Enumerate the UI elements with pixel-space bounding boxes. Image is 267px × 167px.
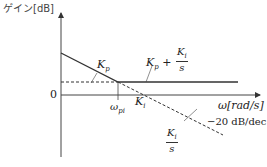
bode-plot: [0, 0, 267, 167]
y-axis-label: ゲイン[dB]: [3, 4, 54, 14]
zero-label: 0: [50, 89, 57, 100]
int-fraction: Ki s: [166, 128, 178, 154]
ki-label: Ki: [135, 96, 145, 110]
int-leader: [184, 109, 197, 121]
break-freq-label: ωpi: [110, 102, 125, 115]
kp-label: Kp: [97, 59, 110, 73]
slope-label: −20 dB/dec: [207, 117, 266, 127]
sum-fraction: Ki s: [176, 47, 188, 73]
x-axis-label: ω[rad/s]: [218, 100, 264, 111]
sum-label: Kp +: [146, 57, 171, 71]
